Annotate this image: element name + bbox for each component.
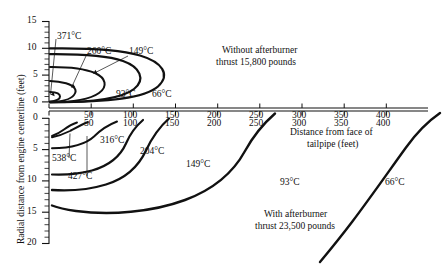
upper-y-tick-0: 0 <box>33 95 38 106</box>
lower-x-tick-250: 250 <box>249 118 263 129</box>
lower-y-tick-10: 10 <box>27 174 37 185</box>
annotation-with-afterburner-line1: With afterburner <box>264 209 327 220</box>
lower-y-tick-20: 20 <box>27 237 37 248</box>
lower-y-tick-0: 0 <box>33 112 38 123</box>
annotation-without-afterburner-line1: Without afterburner <box>222 45 297 56</box>
temp-label-316C-lower: 316°C <box>100 135 124 146</box>
temp-label-149C-upper: 149°C <box>129 46 153 57</box>
upper-y-tick-10: 10 <box>27 42 37 53</box>
upper-y-tick-5: 5 <box>33 69 38 80</box>
annotation-without-afterburner-line2: thrust 15,800 pounds <box>216 57 296 68</box>
x-axis-title-line1: Distance from face of <box>290 127 373 138</box>
lower-x-tick-50: 50 <box>84 118 94 129</box>
temp-label-66C-upper: 66°C <box>152 89 172 100</box>
temp-label-66C-lower: 66°C <box>385 177 405 188</box>
upper-y-tick-15: 15 <box>27 15 37 26</box>
lower-x-tick-100: 100 <box>123 118 137 129</box>
chart-figure: Radial distance from engine centerline (… <box>0 0 443 277</box>
temp-label-149C-lower: 149°C <box>186 159 210 170</box>
y-axis-title: Radial distance from engine centerline (… <box>16 74 26 244</box>
temp-label-204C-lower: 204°C <box>140 146 164 157</box>
temp-label-260C-upper: 260°C <box>87 46 111 57</box>
lower-y-tick-5: 5 <box>33 143 38 154</box>
temp-label-93C-lower: 93°C <box>280 177 300 188</box>
upper-x-ticks <box>49 104 386 109</box>
temp-label-93C-upper: 93°C <box>116 89 136 100</box>
lower-x-tick-400: 400 <box>376 118 390 129</box>
annotation-with-afterburner-line2: thrust 23,500 pounds <box>255 221 335 232</box>
lower-x-tick-200: 200 <box>207 118 221 129</box>
contour-371C-upper <box>50 92 60 102</box>
upper-y-minor-ticks <box>45 27 50 97</box>
temp-label-371C-upper: 371°C <box>57 31 81 42</box>
lower-x-tick-150: 150 <box>165 118 179 129</box>
lower-y-tick-15: 15 <box>27 206 37 217</box>
upper-y-major-ticks <box>42 22 49 102</box>
temp-label-427C-lower: 427°C <box>68 171 92 182</box>
temp-label-538C-lower: 538°C <box>52 153 76 164</box>
x-axis-title-line2: tailpipe (feet) <box>307 139 358 150</box>
leader-260C-upper <box>72 56 87 88</box>
